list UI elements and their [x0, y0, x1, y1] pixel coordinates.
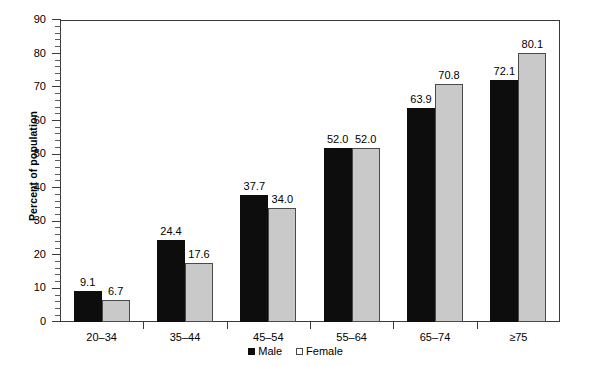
y-axis-minor-tick — [55, 207, 61, 208]
bar-value-label: 24.4 — [150, 226, 192, 237]
legend-swatch-female-icon — [296, 348, 303, 355]
bar-female-3 — [352, 148, 380, 322]
y-axis-major-tick — [52, 154, 61, 155]
y-axis-minor-tick — [55, 26, 61, 27]
y-axis-major-tick — [52, 288, 61, 289]
y-axis-minor-tick — [55, 167, 61, 168]
y-axis-minor-tick — [55, 308, 61, 309]
y-axis-tick-label: 40 — [0, 182, 46, 193]
y-axis-minor-tick — [55, 73, 61, 74]
y-axis-minor-tick — [55, 301, 61, 302]
x-axis-tick-label: 35–44 — [143, 331, 226, 343]
y-axis-minor-tick — [55, 160, 61, 161]
y-axis-major-tick — [52, 321, 61, 322]
y-axis-minor-tick — [55, 281, 61, 282]
y-axis-minor-tick — [55, 315, 61, 316]
bar-value-label: 17.6 — [178, 249, 220, 260]
y-axis-minor-tick — [55, 227, 61, 228]
bar-value-label: 80.1 — [511, 39, 553, 50]
y-axis-major-tick — [52, 53, 61, 54]
bar-value-label: 52.0 — [345, 134, 387, 145]
y-axis-minor-tick — [55, 180, 61, 181]
bar-female-1 — [185, 263, 213, 322]
legend-label: Male — [258, 346, 282, 357]
y-axis-minor-tick — [55, 66, 61, 67]
y-axis-minor-tick — [55, 268, 61, 269]
y-axis-minor-tick — [55, 274, 61, 275]
y-axis-minor-tick — [55, 100, 61, 101]
y-axis-tick-label: 50 — [0, 148, 46, 159]
y-axis-major-tick — [52, 120, 61, 121]
y-axis-tick-label: 20 — [0, 249, 46, 260]
y-axis-major-tick — [52, 187, 61, 188]
y-axis-minor-tick — [55, 60, 61, 61]
y-axis-tick-label: 90 — [0, 14, 46, 25]
y-axis-minor-tick — [55, 93, 61, 94]
bar-value-label: 34.0 — [261, 194, 303, 205]
y-axis-title: Percent of population — [27, 76, 39, 256]
bar-value-label: 70.8 — [428, 70, 470, 81]
bar-value-label: 6.7 — [95, 286, 137, 297]
bar-female-5 — [518, 53, 546, 322]
y-axis-minor-tick — [55, 140, 61, 141]
y-axis-tick-label: 80 — [0, 48, 46, 59]
y-axis-minor-tick — [55, 133, 61, 134]
y-axis-minor-tick — [55, 33, 61, 34]
x-axis-tick — [227, 322, 228, 329]
legend-swatch-male-icon — [248, 348, 255, 355]
y-axis-minor-tick — [55, 127, 61, 128]
bar-female-0 — [102, 300, 130, 322]
y-axis-tick-label: 0 — [0, 316, 46, 327]
legend: MaleFemale — [0, 346, 591, 357]
y-axis-minor-tick — [55, 201, 61, 202]
y-axis-tick-label: 60 — [0, 115, 46, 126]
bar-female-2 — [268, 208, 296, 322]
bar-male-4 — [407, 108, 435, 322]
x-axis-tick-label: 55–64 — [310, 331, 393, 343]
x-axis-tick — [393, 322, 394, 329]
x-axis-tick — [477, 322, 478, 329]
y-axis-minor-tick — [55, 295, 61, 296]
legend-label: Female — [306, 346, 343, 357]
y-axis-minor-tick — [55, 107, 61, 108]
x-axis-tick — [143, 322, 144, 329]
y-axis-minor-tick — [55, 241, 61, 242]
x-axis-tick-label: 65–74 — [393, 331, 476, 343]
bar-male-2 — [240, 195, 268, 322]
bar-chart: Percent of population 010203040506070809… — [0, 0, 591, 366]
y-axis-tick-label: 10 — [0, 282, 46, 293]
x-axis-tick-label: 45–54 — [227, 331, 310, 343]
y-axis-minor-tick — [55, 234, 61, 235]
bar-female-4 — [435, 84, 463, 322]
y-axis-minor-tick — [55, 248, 61, 249]
y-axis-minor-tick — [55, 113, 61, 114]
y-axis-minor-tick — [55, 174, 61, 175]
y-axis-tick-label: 30 — [0, 215, 46, 226]
y-axis-major-tick — [52, 254, 61, 255]
y-axis-minor-tick — [55, 214, 61, 215]
y-axis-minor-tick — [55, 39, 61, 40]
y-axis-minor-tick — [55, 46, 61, 47]
y-axis-minor-tick — [55, 147, 61, 148]
bar-male-5 — [490, 80, 518, 322]
y-axis-major-tick — [52, 19, 61, 20]
legend-item-male[interactable]: Male — [248, 346, 282, 357]
y-axis-major-tick — [52, 86, 61, 87]
x-axis-tick-label: 20–34 — [60, 331, 143, 343]
x-axis-tick — [310, 322, 311, 329]
y-axis-minor-tick — [55, 194, 61, 195]
x-axis-tick-label: ≥75 — [477, 331, 560, 343]
bar-male-3 — [324, 148, 352, 322]
y-axis-tick-label: 70 — [0, 81, 46, 92]
y-axis-minor-tick — [55, 80, 61, 81]
legend-item-female[interactable]: Female — [296, 346, 343, 357]
y-axis-major-tick — [52, 221, 61, 222]
y-axis-minor-tick — [55, 261, 61, 262]
bar-value-label: 37.7 — [233, 181, 275, 192]
